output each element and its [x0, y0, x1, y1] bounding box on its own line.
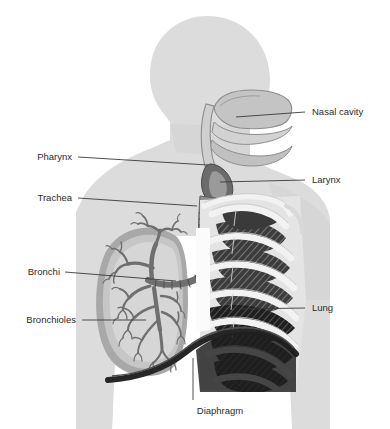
label-pharynx: Pharynx — [37, 151, 72, 162]
diagram-canvas: Nasal cavity Pharynx Larynx Trachea Bron… — [0, 0, 390, 429]
label-trachea: Trachea — [38, 192, 73, 203]
label-nasal-cavity: Nasal cavity — [312, 106, 363, 117]
label-bronchioles: Bronchioles — [26, 314, 76, 325]
label-bronchi: Bronchi — [28, 266, 60, 277]
sternum-shape — [196, 228, 210, 332]
label-larynx: Larynx — [312, 174, 341, 185]
lung-core-shape — [110, 242, 179, 362]
label-lung: Lung — [312, 302, 333, 313]
label-diaphragm: Diaphragm — [197, 405, 244, 416]
respiratory-system-diagram: Nasal cavity Pharynx Larynx Trachea Bron… — [0, 0, 390, 429]
lung-group — [96, 228, 188, 376]
